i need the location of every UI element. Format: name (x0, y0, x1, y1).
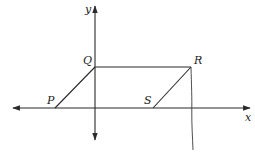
point-label-P: P (46, 94, 55, 107)
y-axis-label: y (84, 3, 92, 16)
segment-RS (153, 67, 191, 108)
point-label-Q: Q (83, 54, 92, 67)
coordinate-diagram: y x Q R P S (0, 0, 255, 152)
point-label-S: S (144, 94, 152, 107)
x-axis-label: x (245, 111, 252, 124)
segment-PQ (55, 67, 95, 108)
point-label-R: R (193, 54, 202, 67)
